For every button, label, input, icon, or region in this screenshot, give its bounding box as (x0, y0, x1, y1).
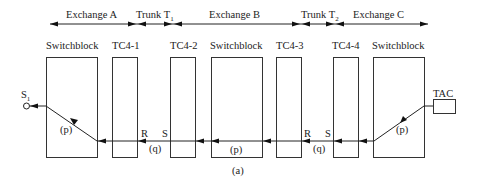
path-label-q-1: (q) (149, 143, 162, 155)
block-label-tc4-1: TC4-1 (112, 40, 139, 51)
figure-caption: (a) (232, 165, 244, 177)
switchblock-c (374, 58, 425, 158)
path-label-p-a: (p) (60, 124, 73, 136)
span-label-exchange-a: Exchange A (66, 9, 117, 20)
block-label-switchblock-c: Switchblock (372, 40, 425, 51)
block-label-tc4-2: TC4-2 (170, 40, 197, 51)
signalling-path-diagram: Exchange A Trunk T1 Exchange B Trunk T2 … (0, 0, 478, 186)
port-label-s1: S (162, 128, 168, 139)
switchblock-b (212, 58, 263, 158)
span-arrows (50, 22, 428, 27)
subscriber-terminal-icon (24, 103, 30, 109)
block-label-tc4-3: TC4-3 (276, 40, 303, 51)
block-label-switchblock-b: Switchblock (210, 40, 263, 51)
port-label-r1: R (141, 128, 148, 139)
path-label-p-b: (p) (230, 144, 243, 156)
block-label-switchblock-a: Switchblock (46, 40, 99, 51)
tc4-1-block (113, 58, 138, 158)
tac-box (434, 100, 456, 114)
block-label-tc4-4: TC4-4 (332, 40, 360, 51)
path-label-p-c: (p) (396, 124, 409, 136)
tc4-2-block (171, 58, 196, 158)
port-label-s2: S (325, 128, 331, 139)
span-label-exchange-c: Exchange C (353, 9, 404, 20)
span-label-trunk-t1: Trunk T1 (136, 9, 174, 23)
path-label-q-2: (q) (313, 143, 326, 155)
tac-label: TAC (433, 88, 453, 99)
span-label-trunk-t2: Trunk T2 (301, 9, 339, 23)
port-label-r2: R (304, 128, 311, 139)
span-label-exchange-b: Exchange B (209, 9, 260, 20)
tc4-3-block (277, 58, 302, 158)
tc4-4-block (334, 58, 359, 158)
subscriber-label: S1 (21, 89, 31, 103)
switchblock-a (47, 58, 98, 158)
